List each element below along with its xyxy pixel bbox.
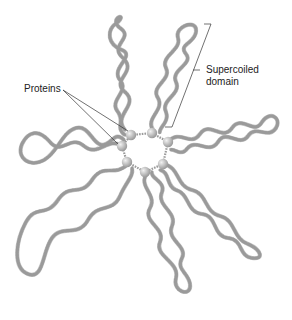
protein-sphere bbox=[147, 128, 157, 138]
chromosome-diagram bbox=[0, 0, 292, 320]
supercoiled-domain-label: Supercoiled domain bbox=[206, 64, 259, 88]
proteins-label: Proteins bbox=[24, 83, 61, 95]
supercoiled-domain-bottom-left bbox=[17, 164, 132, 275]
supercoiled-domain-right bbox=[168, 116, 278, 152]
protein-sphere bbox=[122, 157, 132, 167]
protein-sphere bbox=[117, 141, 127, 151]
protein-sphere bbox=[140, 167, 150, 177]
supercoiled-domain-left bbox=[21, 128, 124, 163]
supercoiled-domain-bracket bbox=[165, 24, 211, 127]
supercoiled-label-line1: Supercoiled bbox=[206, 64, 259, 76]
supercoiled-domain-top-right bbox=[151, 25, 196, 133]
supercoiled-domain-top-left bbox=[110, 17, 130, 135]
supercoiled-domain-bottom bbox=[144, 172, 190, 292]
protein-sphere bbox=[158, 159, 168, 169]
protein-sphere bbox=[163, 137, 173, 147]
supercoiled-domain-bottom-right bbox=[160, 164, 260, 258]
supercoiled-label-line2: domain bbox=[206, 76, 259, 88]
protein-sphere bbox=[126, 130, 136, 140]
